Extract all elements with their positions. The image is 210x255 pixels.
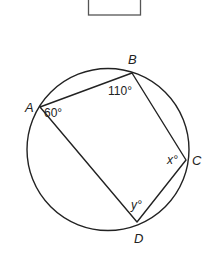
angle-label-c: x° xyxy=(166,153,178,167)
vertex-label-c: C xyxy=(192,153,202,168)
vertex-label-b: B xyxy=(128,52,137,67)
answer-box[interactable] xyxy=(89,0,141,15)
angle-label-b: 110° xyxy=(108,84,132,98)
vertex-label-d: D xyxy=(134,231,143,246)
angle-label-d: y° xyxy=(130,198,142,212)
vertex-label-a: A xyxy=(24,100,34,115)
cyclic-quadrilateral-diagram: A B C D 60° 110° x° y° xyxy=(0,0,210,255)
angle-label-a: 60° xyxy=(44,106,62,120)
